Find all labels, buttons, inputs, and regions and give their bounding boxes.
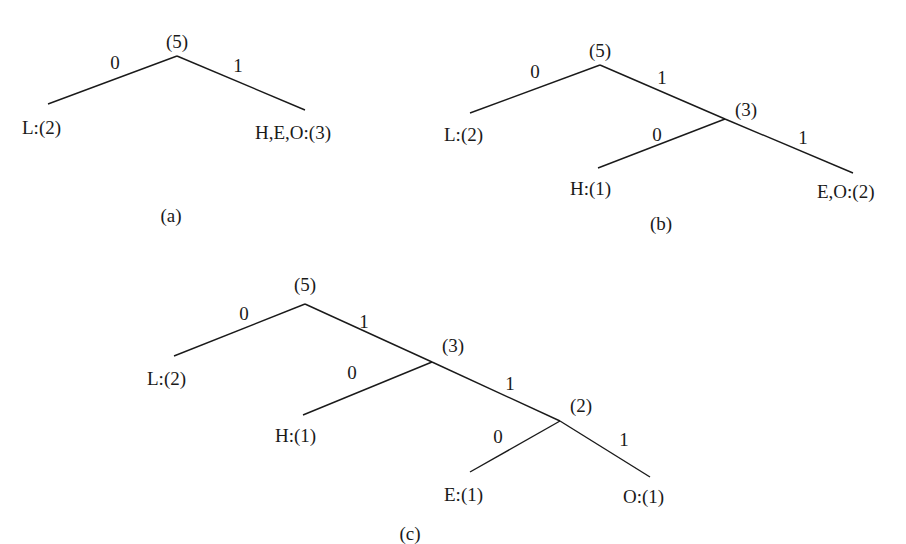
node-c-root: (5) — [294, 274, 316, 296]
bit-c-n3-1: 1 — [505, 373, 515, 394]
edge-c-n3-H — [303, 362, 432, 415]
edge-c-n3-n2 — [432, 362, 560, 421]
bit-c-n3-0: 0 — [347, 362, 357, 383]
tree-b: (5) 0 1 (3) 0 1 L:(2) H:(1) E,O:(2) (b) — [444, 40, 875, 235]
caption-c: (c) — [399, 523, 420, 544]
node-c-O: O:(1) — [623, 486, 664, 508]
bit-a-1: 1 — [233, 55, 243, 76]
node-b-n3: (3) — [735, 99, 757, 121]
huffman-tree-figure: (5) 0 1 L:(2) H,E,O:(3) (a) (5) 0 1 (3) … — [0, 0, 906, 544]
bit-b-1: 1 — [657, 67, 667, 88]
bit-c-n2-1: 1 — [619, 429, 629, 450]
node-a-HEO: H,E,O:(3) — [255, 122, 331, 144]
node-c-E: E:(1) — [444, 484, 483, 506]
node-c-n2: (2) — [570, 395, 592, 417]
caption-b: (b) — [650, 213, 672, 235]
tree-c: (5) 0 1 (3) 0 1 (2) 0 1 L:(2) H:(1) E:(1… — [147, 274, 664, 544]
bit-b-0: 0 — [530, 61, 540, 82]
edge-c-n2-E — [470, 421, 560, 472]
node-b-root: (5) — [589, 40, 611, 62]
node-b-EO: E,O:(2) — [817, 181, 875, 203]
node-c-L: L:(2) — [147, 368, 186, 390]
bit-c-n2-0: 0 — [493, 426, 503, 447]
node-a-L: L:(2) — [22, 117, 61, 139]
node-b-H: H:(1) — [570, 178, 611, 200]
node-c-H: H:(1) — [275, 425, 316, 447]
bit-a-0: 0 — [110, 52, 120, 73]
bit-b-n3-0: 0 — [652, 124, 662, 145]
tree-a: (5) 0 1 L:(2) H,E,O:(3) (a) — [22, 31, 331, 227]
node-b-L: L:(2) — [444, 124, 483, 146]
node-a-root: (5) — [166, 31, 188, 53]
bit-b-n3-1: 1 — [798, 127, 808, 148]
node-c-n3: (3) — [442, 335, 464, 357]
edge-b-n3-EO — [725, 119, 853, 173]
bit-c-1: 1 — [359, 311, 369, 332]
bit-c-0: 0 — [239, 303, 249, 324]
caption-a: (a) — [160, 205, 181, 227]
edge-c-n2-O — [560, 421, 650, 477]
